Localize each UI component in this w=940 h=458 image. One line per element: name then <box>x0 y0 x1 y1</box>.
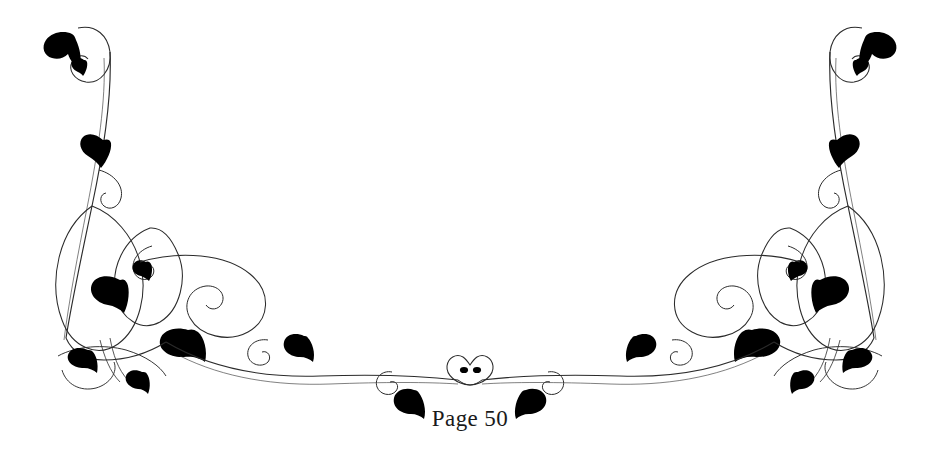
flourish-left-half <box>44 27 458 419</box>
page-canvas: Page 50 <box>0 0 940 458</box>
flourish-right-half <box>482 27 896 419</box>
page-number-label: Page 50 <box>0 404 940 434</box>
center-dot-left <box>460 367 468 373</box>
floral-flourish-divider-icon <box>0 0 940 458</box>
center-heart-motif-icon <box>447 356 493 385</box>
ornament-container <box>0 0 940 458</box>
center-dot-right <box>473 367 481 373</box>
